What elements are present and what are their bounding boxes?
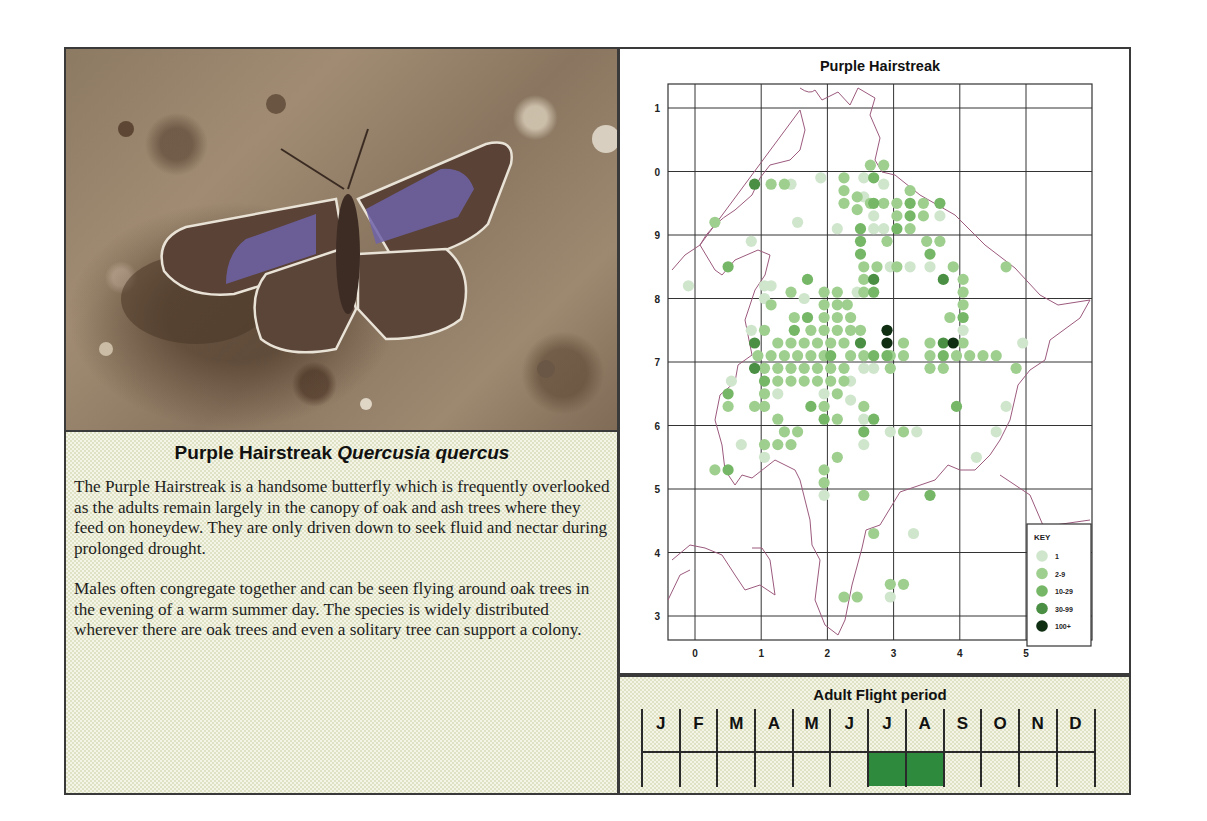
record-dot — [746, 236, 757, 247]
key-label: 30-99 — [1055, 606, 1073, 613]
record-dot — [766, 179, 777, 190]
record-dot — [938, 363, 949, 374]
record-dot — [736, 439, 747, 450]
record-dot — [908, 528, 919, 539]
month-divider-line — [642, 751, 1095, 753]
record-dot — [772, 414, 783, 425]
record-dot — [858, 439, 869, 450]
record-dot — [759, 452, 770, 463]
month-separator — [867, 709, 869, 787]
record-dot — [858, 274, 869, 285]
month-cell: D — [1057, 709, 1095, 787]
flight-period-panel: Adult Flight period JFMAMJJASOND — [620, 677, 1129, 793]
record-dot — [855, 337, 866, 348]
record-dot — [898, 337, 909, 348]
record-dot — [891, 261, 902, 272]
record-dot — [723, 261, 734, 272]
key-label: 1 — [1055, 553, 1059, 560]
record-dot — [759, 439, 770, 450]
butterfly-photo — [66, 49, 618, 430]
record-dot — [905, 185, 916, 196]
record-dot — [752, 350, 763, 361]
record-dot — [792, 426, 803, 437]
record-dot — [868, 528, 879, 539]
record-dot — [819, 414, 830, 425]
record-dot — [905, 261, 916, 272]
record-dot — [991, 426, 1002, 437]
record-dot — [779, 179, 790, 190]
butterfly-illustration — [66, 49, 618, 430]
month-label: M — [717, 714, 755, 734]
record-dot — [858, 401, 869, 412]
key-swatch — [1036, 603, 1048, 615]
month-label: N — [1019, 714, 1057, 734]
record-dot — [779, 426, 790, 437]
record-dot — [958, 274, 969, 285]
species-heading: Purple Hairstreak Quercusia quercus — [66, 442, 618, 464]
flight-empty-cell — [717, 753, 755, 786]
record-dot — [885, 363, 896, 374]
record-dot — [948, 337, 959, 348]
record-dot — [838, 591, 849, 602]
record-dot — [991, 350, 1002, 361]
record-dot — [819, 477, 830, 488]
record-dot — [958, 312, 969, 323]
record-dot — [924, 261, 935, 272]
record-dot — [799, 376, 810, 387]
record-dot — [832, 325, 843, 336]
record-dot — [683, 280, 694, 291]
record-dot — [832, 312, 843, 323]
month-cell: J — [642, 709, 680, 787]
record-dot — [855, 249, 866, 260]
record-dot — [772, 337, 783, 348]
record-dot — [938, 274, 949, 285]
record-dot — [938, 337, 949, 348]
record-dot — [766, 280, 777, 291]
month-separator — [641, 709, 643, 787]
scientific-name: Quercusia quercus — [337, 442, 509, 463]
record-dot — [852, 204, 863, 215]
record-dot — [911, 426, 922, 437]
key-title: KEY — [1034, 533, 1051, 542]
record-dot — [934, 210, 945, 221]
month-separator — [754, 709, 756, 787]
record-dot — [812, 337, 823, 348]
record-dot — [852, 191, 863, 202]
record-dot — [852, 591, 863, 602]
record-dot — [792, 350, 803, 361]
record-dot — [964, 350, 975, 361]
y-tick-label: 3 — [654, 611, 660, 622]
record-dot — [723, 401, 734, 412]
month-separator — [1056, 709, 1058, 787]
record-dot — [858, 363, 869, 374]
record-dot — [934, 198, 945, 209]
record-dot — [723, 388, 734, 399]
flight-empty-cell — [981, 753, 1019, 786]
record-dot — [838, 363, 849, 374]
description-paragraph-2: Males often congregate together and can … — [66, 579, 618, 641]
record-dot — [858, 490, 869, 501]
record-dot — [726, 376, 737, 387]
month-separator — [943, 709, 945, 787]
record-dot — [868, 414, 879, 425]
common-name: Purple Hairstreak — [175, 442, 332, 463]
record-dot — [977, 350, 988, 361]
record-dot — [825, 350, 836, 361]
record-dot — [845, 325, 856, 336]
record-dot — [819, 325, 830, 336]
flight-active-bar — [868, 753, 906, 786]
record-dot — [855, 325, 866, 336]
month-label: J — [642, 714, 680, 734]
month-strip: JFMAMJJASOND — [642, 709, 1096, 787]
record-dot — [812, 376, 823, 387]
month-cell: A — [906, 709, 944, 787]
record-dot — [785, 287, 796, 298]
month-separator — [905, 709, 907, 787]
record-dot — [868, 274, 879, 285]
record-dot — [921, 236, 932, 247]
record-dot — [938, 350, 949, 361]
record-dot — [898, 350, 909, 361]
month-cell: M — [717, 709, 755, 787]
month-label: J — [830, 714, 868, 734]
x-tick-label: 0 — [692, 648, 698, 659]
